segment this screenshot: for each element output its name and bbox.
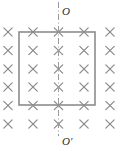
field-into-page-x-icon <box>4 28 12 36</box>
axis-label-o-prime: O' <box>62 136 72 147</box>
axis-label-o: O <box>62 6 70 17</box>
field-into-page-x-icon <box>80 46 88 54</box>
field-into-page-x-icon <box>4 83 12 91</box>
field-into-page-x-icon <box>29 65 37 73</box>
field-into-page-x-icon <box>29 120 37 128</box>
field-into-page-x-icon <box>80 120 88 128</box>
field-into-page-x-icon <box>4 65 12 73</box>
field-into-page-x-icon <box>80 83 88 91</box>
figure-canvas <box>0 0 125 154</box>
magnetic-field-loop-figure: O O' <box>0 0 125 154</box>
field-into-page-x-icon <box>106 46 114 54</box>
field-into-page-x-icon <box>106 83 114 91</box>
field-into-page-x-icon <box>4 120 12 128</box>
field-into-page-x-icon <box>29 46 37 54</box>
field-into-page-x-icon <box>106 101 114 109</box>
field-into-page-x-icon <box>4 46 12 54</box>
field-into-page-x-icon <box>4 101 12 109</box>
field-into-page-x-icon <box>106 65 114 73</box>
field-into-page-x-icon <box>29 83 37 91</box>
field-into-page-x-icon <box>106 28 114 36</box>
field-into-page-x-icon <box>106 120 114 128</box>
field-into-page-x-icon <box>80 65 88 73</box>
